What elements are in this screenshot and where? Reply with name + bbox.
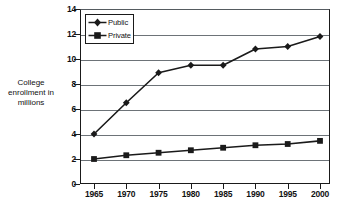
legend-label-public: Public <box>108 18 128 27</box>
y-axis-tick-label: 8 <box>54 79 76 89</box>
x-axis-tick-mark <box>288 184 289 189</box>
legend-label-private: Private <box>108 31 131 40</box>
x-axis-tick-mark <box>255 184 256 189</box>
y-axis-tick-mark <box>74 184 80 185</box>
legend-item-public: Public <box>88 16 133 29</box>
series-line-public <box>94 37 320 135</box>
x-axis-tick-mark <box>159 184 160 189</box>
y-axis-tick-mark <box>74 34 80 35</box>
data-point-private-1990 <box>253 142 259 148</box>
data-point-private-1980 <box>188 147 194 153</box>
y-axis-tick-mark <box>74 109 80 110</box>
y-axis-tick-label: 0 <box>54 179 76 189</box>
diamond-marker-icon <box>88 17 107 28</box>
y-axis-tick-label: 14 <box>54 4 76 14</box>
y-axis-tick-mark <box>74 134 80 135</box>
data-point-public-1985 <box>220 62 227 69</box>
chart-container: College enrollment in millions Public <box>0 0 343 207</box>
square-marker-icon <box>88 30 107 41</box>
y-axis-tick-mark <box>74 9 80 10</box>
y-axis-tick-label: 4 <box>54 129 76 139</box>
y-axis-tick-label: 6 <box>54 104 76 114</box>
data-point-private-1995 <box>285 141 291 147</box>
x-axis-tick-label: 2000 <box>300 189 340 199</box>
x-axis-tick-mark <box>191 184 192 189</box>
x-axis-tick-mark <box>223 184 224 189</box>
chart-legend: Public Private <box>85 14 134 44</box>
data-point-private-1975 <box>156 150 162 156</box>
data-point-public-2000 <box>317 33 324 40</box>
y-axis-tick-mark <box>74 159 80 160</box>
data-point-private-1985 <box>220 145 226 151</box>
data-point-private-1970 <box>123 152 129 158</box>
legend-item-private: Private <box>88 29 133 42</box>
y-axis-tick-label: 10 <box>54 54 76 64</box>
data-point-private-2000 <box>317 138 323 144</box>
y-axis-tick-mark <box>74 84 80 85</box>
data-point-public-1990 <box>252 46 259 53</box>
data-point-public-1995 <box>284 43 291 50</box>
y-axis-tick-label: 12 <box>54 29 76 39</box>
data-point-public-1980 <box>187 62 194 69</box>
x-axis-tick-mark <box>320 184 321 189</box>
y-axis-tick-mark <box>74 59 80 60</box>
y-axis-tick-label: 2 <box>54 154 76 164</box>
data-point-private-1965 <box>91 156 97 162</box>
x-axis-tick-mark <box>94 184 95 189</box>
series-layer <box>0 0 343 207</box>
x-axis-tick-mark <box>126 184 127 189</box>
